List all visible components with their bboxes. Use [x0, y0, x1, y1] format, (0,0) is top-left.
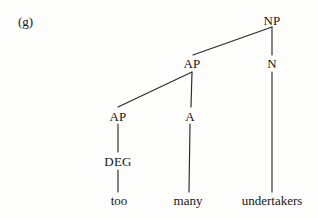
tree-leaf-many: many [174, 194, 203, 207]
tree-edge-ap2-ap1 [118, 72, 192, 107]
tree-node-n: N [267, 57, 277, 70]
tree-leaf-undertakers: undertakers [242, 194, 303, 207]
tree-edges [0, 0, 318, 218]
tree-edge-ap2-a [191, 72, 192, 107]
tree-leaf-too: too [111, 194, 128, 207]
tree-node-a: A [185, 110, 195, 123]
tree-edge-a-many [189, 124, 190, 192]
figure-canvas: (g) NPAPNAPADEG toomanyundertakers [0, 0, 318, 218]
tree-node-ap2: AP [183, 57, 200, 70]
tree-node-np: NP [263, 14, 280, 27]
tree-node-deg: DEG [104, 155, 131, 168]
tree-node-ap1: AP [109, 110, 126, 123]
tree-edge-np-ap2 [193, 27, 272, 55]
